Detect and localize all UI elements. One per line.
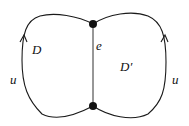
region-label-d-prime: D′ xyxy=(119,59,132,74)
vertex-bottom xyxy=(89,102,97,110)
vertex-top xyxy=(89,20,97,28)
left-boundary-curve xyxy=(22,14,93,117)
edge-label-e: e xyxy=(96,38,102,53)
left-path-label-u: u xyxy=(10,72,17,87)
region-label-d: D xyxy=(31,42,42,57)
diagram-canvas: D e D′ u u xyxy=(0,0,189,126)
right-path-label-u: u xyxy=(172,72,179,87)
